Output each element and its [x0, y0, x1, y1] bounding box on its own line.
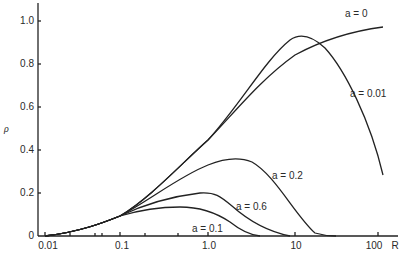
x-tick-label: 0.1: [115, 240, 129, 251]
x-tick-label: 100: [366, 240, 383, 251]
y-tick-label: 0: [28, 230, 34, 241]
y-axis-label: ρ: [3, 123, 9, 134]
y-tick-label: 0.4: [20, 144, 34, 155]
x-tick-label: 1.0: [202, 240, 216, 251]
y-tick-label: 0.6: [20, 101, 34, 112]
x-tick-label: 10: [290, 240, 302, 251]
curve-label-a-0.2: a = 0.2: [272, 170, 303, 181]
y-tick-label: 0.8: [20, 58, 34, 69]
x-axis-label: R: [391, 240, 398, 251]
curve-a-0.01: [45, 36, 383, 236]
x-tick-labels: 0.01 0.1 1.0 10 100: [38, 240, 383, 251]
chart: 1.0 0.8 0.6 0.4 0.2 0 ρ 0.01 0.1 1.0 10 …: [0, 0, 402, 259]
curve-a-0.1: [45, 207, 260, 236]
y-tick-label: 0.2: [20, 187, 34, 198]
curve-label-a-0.1: a = 0.1: [192, 223, 223, 234]
x-tick-label: 0.01: [38, 240, 58, 251]
y-tick-labels: 1.0 0.8 0.6 0.4 0.2 0: [20, 15, 34, 241]
curve-label-a-0.01: a = 0.01: [350, 88, 387, 99]
curve-a-0: [45, 27, 383, 236]
curve-label-a-0: a = 0: [345, 8, 368, 19]
y-tick-label: 1.0: [20, 15, 34, 26]
curve-label-a-0.6: a = 0.6: [236, 201, 267, 212]
